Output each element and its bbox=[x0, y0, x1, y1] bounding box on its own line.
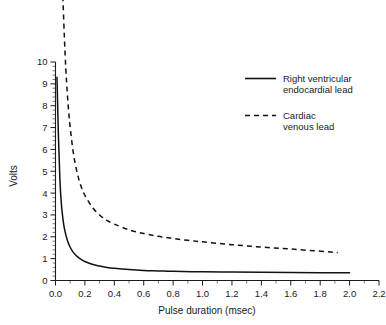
y-tick-label: 3 bbox=[42, 209, 47, 220]
series-line-right-ventricular-endocardial-lead bbox=[57, 77, 350, 273]
y-tick-label: 2 bbox=[42, 231, 47, 242]
y-tick-label: 7 bbox=[42, 122, 47, 133]
legend: Right ventricular endocardial lead Cardi… bbox=[245, 73, 353, 132]
legend-label-line1: Right ventricular bbox=[283, 73, 352, 84]
x-axis-title: Pulse duration (msec) bbox=[158, 305, 255, 316]
y-axis-title: Volts bbox=[8, 165, 19, 187]
y-tick-label: 1 bbox=[42, 253, 47, 264]
x-tick-label: 1.6 bbox=[284, 288, 297, 299]
chart-canvas: 012345678910 0.00.20.40.60.81.01.21.41.6… bbox=[0, 0, 386, 325]
legend-entry-right-ventricular-endocardial-lead: Right ventricular endocardial lead bbox=[245, 73, 353, 95]
legend-entry-cardiac-venous-lead: Cardiac venous lead bbox=[245, 110, 334, 132]
x-tick-label: 0.6 bbox=[137, 288, 150, 299]
y-tick-label: 6 bbox=[42, 144, 47, 155]
y-tick-label: 10 bbox=[37, 56, 48, 67]
x-tick-label: 0.0 bbox=[49, 288, 62, 299]
legend-label-line2: endocardial lead bbox=[283, 84, 353, 95]
x-tick-label: 2.2 bbox=[372, 288, 385, 299]
x-tick-label: 2.0 bbox=[343, 288, 356, 299]
strength-duration-chart: 012345678910 0.00.20.40.60.81.01.21.41.6… bbox=[0, 0, 386, 325]
y-axis-major-ticks bbox=[51, 62, 56, 281]
y-tick-label: 9 bbox=[42, 78, 47, 89]
x-tick-label: 1.4 bbox=[255, 288, 268, 299]
x-tick-label: 0.2 bbox=[78, 288, 91, 299]
legend-label-line1: Cardiac bbox=[283, 110, 316, 121]
legend-label-line2: venous lead bbox=[283, 121, 334, 132]
x-tick-label: 1.8 bbox=[314, 288, 327, 299]
y-tick-label: 0 bbox=[42, 275, 47, 286]
x-axis-tick-labels: 0.00.20.40.60.81.01.21.41.61.82.02.2 bbox=[49, 288, 386, 299]
x-tick-label: 0.4 bbox=[108, 288, 121, 299]
x-tick-label: 1.0 bbox=[196, 288, 209, 299]
y-tick-label: 4 bbox=[42, 188, 47, 199]
y-axis-tick-labels: 012345678910 bbox=[37, 56, 48, 286]
x-tick-label: 1.2 bbox=[225, 288, 238, 299]
y-tick-label: 8 bbox=[42, 100, 47, 111]
y-tick-label: 5 bbox=[42, 166, 47, 177]
x-tick-label: 0.8 bbox=[167, 288, 180, 299]
